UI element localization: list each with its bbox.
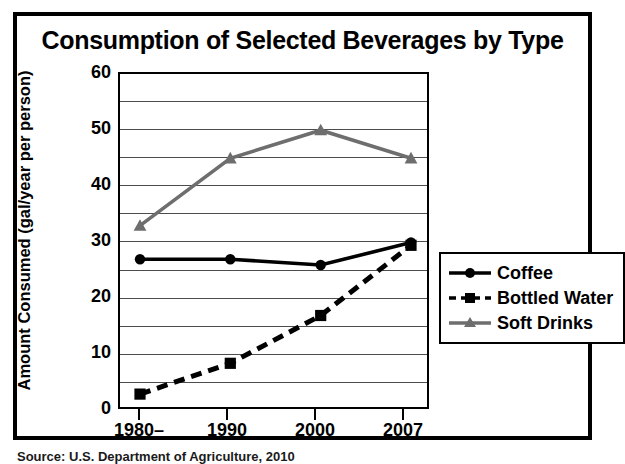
legend-item-soft-drinks: Soft Drinks <box>448 310 613 335</box>
legend-swatch-coffee-line-icon <box>448 265 492 281</box>
legend-swatch-bottled-water-line-icon <box>448 290 492 306</box>
legend-label-soft-drinks: Soft Drinks <box>497 314 593 332</box>
data-point-marker <box>315 310 326 321</box>
series-coffee <box>135 237 416 270</box>
x-tick-2000 <box>314 409 316 420</box>
y-tick-label-20: 20 <box>65 287 111 305</box>
legend-label-bottled-water: Bottled Water <box>497 289 613 307</box>
data-point-marker <box>225 358 236 369</box>
source-note: Source: U.S. Department of Agriculture, … <box>17 449 295 464</box>
y-tick-label-40: 40 <box>65 175 111 193</box>
y-axis-tick-labels: 60 50 40 30 20 10 0 <box>55 16 111 444</box>
series-line <box>140 130 411 225</box>
data-point-marker <box>225 254 235 264</box>
x-tick-label-1990: 1990 <box>182 420 272 441</box>
y-tick-label-60: 60 <box>65 63 111 81</box>
series-line <box>140 245 411 394</box>
series-plot <box>120 74 431 411</box>
data-point-marker <box>316 260 326 270</box>
legend-item-coffee: Coffee <box>448 260 613 285</box>
chart-legend: Coffee Bottled Water Soft Drinks <box>439 252 625 344</box>
legend-swatch-soft-drinks-line-icon <box>448 315 492 331</box>
y-tick-label-30: 30 <box>65 231 111 249</box>
data-point-marker <box>135 254 145 264</box>
series-line <box>140 243 411 266</box>
x-tick-label-1980: 1980– <box>94 420 184 441</box>
series-soft-drinks <box>134 124 418 231</box>
data-point-marker <box>314 124 327 136</box>
x-tick-1980 <box>138 409 140 420</box>
y-tick-label-10: 10 <box>65 343 111 361</box>
x-tick-2007 <box>402 409 404 420</box>
y-axis-title: Amount Consumed (gal/year per person) <box>15 0 34 464</box>
data-point-marker <box>405 240 416 251</box>
data-point-marker <box>134 389 145 400</box>
y-tick-label-50: 50 <box>65 119 111 137</box>
x-tick-label-2007: 2007 <box>358 420 448 441</box>
x-tick-1990 <box>226 409 228 420</box>
legend-label-coffee: Coffee <box>497 264 553 282</box>
legend-item-bottled-water: Bottled Water <box>448 285 613 310</box>
plot-area <box>118 72 429 409</box>
x-tick-label-2000: 2000 <box>270 420 360 441</box>
chart-figure: Consumption of Selected Beverages by Typ… <box>13 12 592 440</box>
y-tick-label-0: 0 <box>65 399 111 417</box>
